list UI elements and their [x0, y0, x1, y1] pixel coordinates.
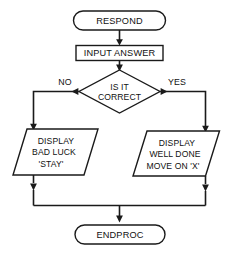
node-start-terminator: RESPOND [74, 11, 166, 30]
connector-output-no-to-merge [30, 175, 37, 206]
branch-label-yes: YES [168, 77, 186, 87]
output-yes-label-line3: MOVE ON 'X' [146, 161, 199, 171]
node-decision: IS IT CORRECT [79, 70, 160, 113]
decision-label-line2: CORRECT [98, 92, 142, 102]
arrow-head-icon [116, 39, 123, 45]
arrow-head-icon [72, 88, 79, 95]
connector-merge-to-end [34, 206, 206, 223]
output-yes-label-line1: DISPLAY [159, 138, 196, 148]
end-terminator-label: ENDPROC [97, 230, 144, 240]
node-output-yes: DISPLAY WELL DONE MOVE ON 'X' [133, 131, 220, 176]
output-no-label-line2: BAD LUCK [32, 147, 76, 157]
flowchart-canvas: RESPOND INPUT ANSWER IS IT CORRECT NO YE… [0, 0, 231, 255]
node-input-process: INPUT ANSWER [76, 46, 163, 61]
arrow-head-icon [202, 185, 209, 192]
output-no-label-line3: 'STAY' [38, 159, 63, 169]
arrow-head-icon [30, 184, 37, 191]
start-terminator-label: RESPOND [96, 16, 143, 26]
arrow-head-icon [161, 88, 168, 95]
connector-output-yes-to-merge [202, 176, 209, 206]
output-yes-label-line2: WELL DONE [149, 149, 200, 159]
node-end-terminator: ENDPROC [75, 225, 165, 244]
input-process-label: INPUT ANSWER [84, 48, 156, 58]
connector-start-to-input [116, 30, 123, 46]
flowchart-diagram: RESPOND INPUT ANSWER IS IT CORRECT NO YE… [0, 0, 231, 255]
node-output-no: DISPLAY BAD LUCK 'STAY' [13, 129, 98, 175]
output-no-label-line1: DISPLAY [38, 136, 75, 146]
branch-label-no: NO [58, 77, 72, 87]
arrow-head-icon [116, 216, 123, 223]
connector-decision-no [30, 88, 78, 130]
decision-label-line1: IS IT [110, 82, 129, 92]
connector-decision-yes [161, 88, 209, 132]
